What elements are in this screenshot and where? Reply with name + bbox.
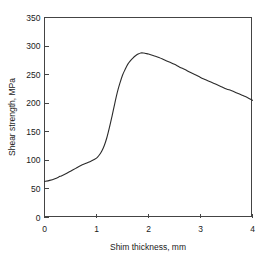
figure-container: 050100150200250300350 01234 Shim thickne… (0, 0, 266, 265)
y-tick-label: 0 (36, 213, 41, 223)
y-tick-label: 150 (26, 127, 40, 137)
y-axis-title: Shear strength, MPa (7, 78, 17, 156)
x-tick-label: 3 (198, 224, 203, 234)
y-axis-ticks (45, 18, 49, 218)
y-tick-label: 350 (26, 13, 40, 23)
x-tick-label: 0 (42, 224, 47, 234)
x-tick-label: 4 (250, 224, 255, 234)
plot-frame (45, 18, 252, 217)
x-tick-label: 2 (146, 224, 151, 234)
data-series-shear-strength (45, 53, 253, 182)
y-tick-label: 100 (26, 155, 40, 165)
y-tick-label: 250 (26, 70, 40, 80)
y-axis-tick-labels: 050100150200250300350 (26, 13, 40, 223)
y-tick-label: 50 (31, 184, 41, 194)
x-axis-title: Shim thickness, mm (110, 242, 186, 252)
y-tick-label: 200 (26, 98, 40, 108)
y-tick-label: 300 (26, 41, 40, 51)
x-axis-tick-labels: 01234 (42, 224, 255, 234)
line-chart: 050100150200250300350 01234 Shim thickne… (0, 0, 266, 265)
x-tick-label: 1 (94, 224, 99, 234)
